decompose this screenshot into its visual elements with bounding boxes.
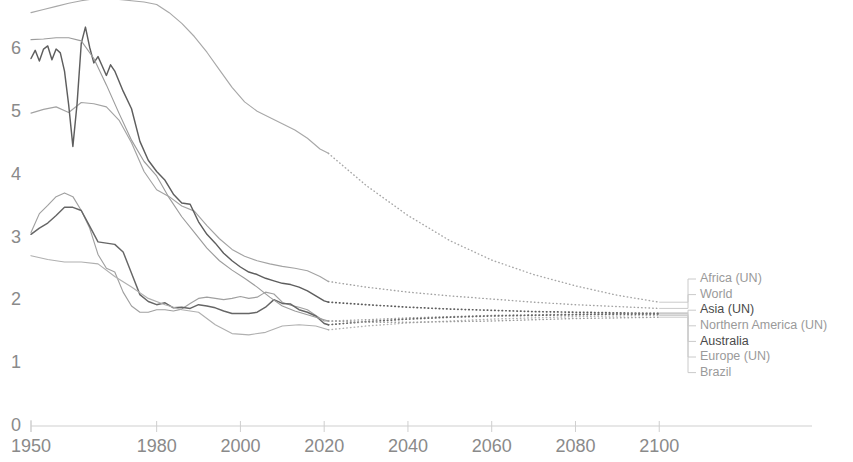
legend-item-label[interactable]: Brazil [700, 365, 731, 379]
x-axis-tick-label: 1980 [137, 436, 177, 456]
y-axis-tick-label: 3 [11, 227, 21, 247]
series-line-projection [328, 281, 659, 308]
y-axis-tick-label: 5 [11, 101, 21, 121]
legend-item-label[interactable]: Asia (UN) [700, 302, 754, 316]
series-line-projection [328, 317, 659, 322]
chart-legend: Africa (UN)WorldAsia (UN)Northern Americ… [700, 271, 827, 379]
legend-leader-line [659, 279, 696, 302]
legend-item-label[interactable]: Africa (UN) [700, 271, 762, 285]
x-axis-tick-label: 2080 [555, 436, 595, 456]
chart-plot-area: 0123456 19501980200020202040206020802100… [0, 0, 853, 462]
y-axis-tick-label: 2 [11, 289, 21, 309]
series-line-historical [31, 193, 328, 321]
y-axis-tick-label: 4 [11, 164, 21, 184]
legend-item-label[interactable]: Europe (UN) [700, 349, 770, 363]
x-axis: 19501980200020202040206020802100 [11, 420, 812, 456]
x-axis-tick-label: 1950 [11, 436, 51, 456]
legend-item-label[interactable]: Northern America (UN) [700, 318, 827, 332]
x-axis-tick-label: 2060 [472, 436, 512, 456]
legend-leader-line [659, 315, 696, 357]
series-line-historical [31, 27, 328, 302]
series-line-projection [328, 302, 659, 313]
legend-item-label[interactable]: Australia [700, 334, 749, 348]
x-axis-tick-label: 2040 [388, 436, 428, 456]
y-axis: 0123456 [11, 38, 21, 435]
x-axis-tick-label: 2000 [220, 436, 260, 456]
legend-leader-line [659, 314, 696, 341]
fertility-rate-chart: 0123456 19501980200020202040206020802100… [0, 0, 853, 462]
series-lines [31, 0, 659, 335]
legend-item-label[interactable]: World [700, 287, 732, 301]
y-axis-tick-label: 1 [11, 352, 21, 372]
series-line-historical [31, 102, 328, 281]
series-line-historical [31, 256, 328, 335]
x-axis-tick-label: 2100 [639, 436, 679, 456]
y-axis-tick-label: 6 [11, 38, 21, 58]
series-line-projection [328, 153, 659, 302]
x-axis-tick-label: 2020 [304, 436, 344, 456]
series-line-historical [31, 38, 328, 321]
y-axis-tick-label: 0 [11, 415, 21, 435]
legend-leader-line [659, 295, 696, 309]
legend-leader-line [659, 313, 696, 326]
legend-leader-lines [659, 279, 696, 373]
series-line-historical [31, 0, 328, 153]
